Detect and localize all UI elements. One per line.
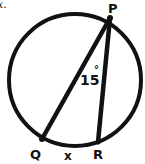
label-r: R xyxy=(93,147,103,162)
point-q xyxy=(39,136,45,142)
point-r xyxy=(96,140,101,145)
arc-label-x: x xyxy=(64,149,72,163)
cut-off-text-fragment: x. xyxy=(0,0,7,11)
label-q: Q xyxy=(30,147,41,162)
label-p: P xyxy=(108,1,118,16)
circle-diagram: x. P Q R 15 ° x xyxy=(0,0,145,164)
degree-symbol: ° xyxy=(94,64,99,75)
